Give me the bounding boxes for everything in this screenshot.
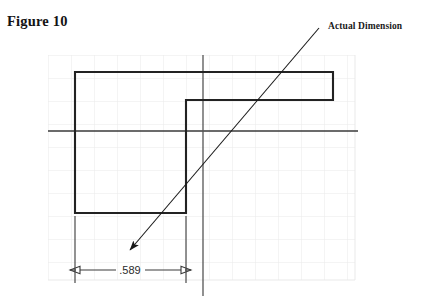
- technical-drawing: .589: [0, 0, 422, 303]
- actual-dimension-label: Actual Dimension: [328, 22, 402, 32]
- figure-title: Figure 10: [7, 14, 68, 29]
- background-grid: [48, 55, 355, 280]
- figure-root: .589 Figure 10 Actual Dimension: [0, 0, 422, 303]
- dimension-value-text: .589: [119, 264, 140, 276]
